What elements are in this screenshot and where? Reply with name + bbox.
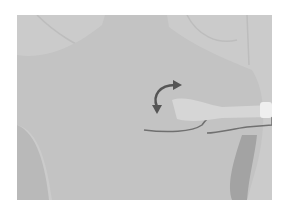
scene bbox=[17, 15, 272, 200]
probe-tip bbox=[260, 102, 272, 118]
photograph bbox=[17, 15, 272, 200]
